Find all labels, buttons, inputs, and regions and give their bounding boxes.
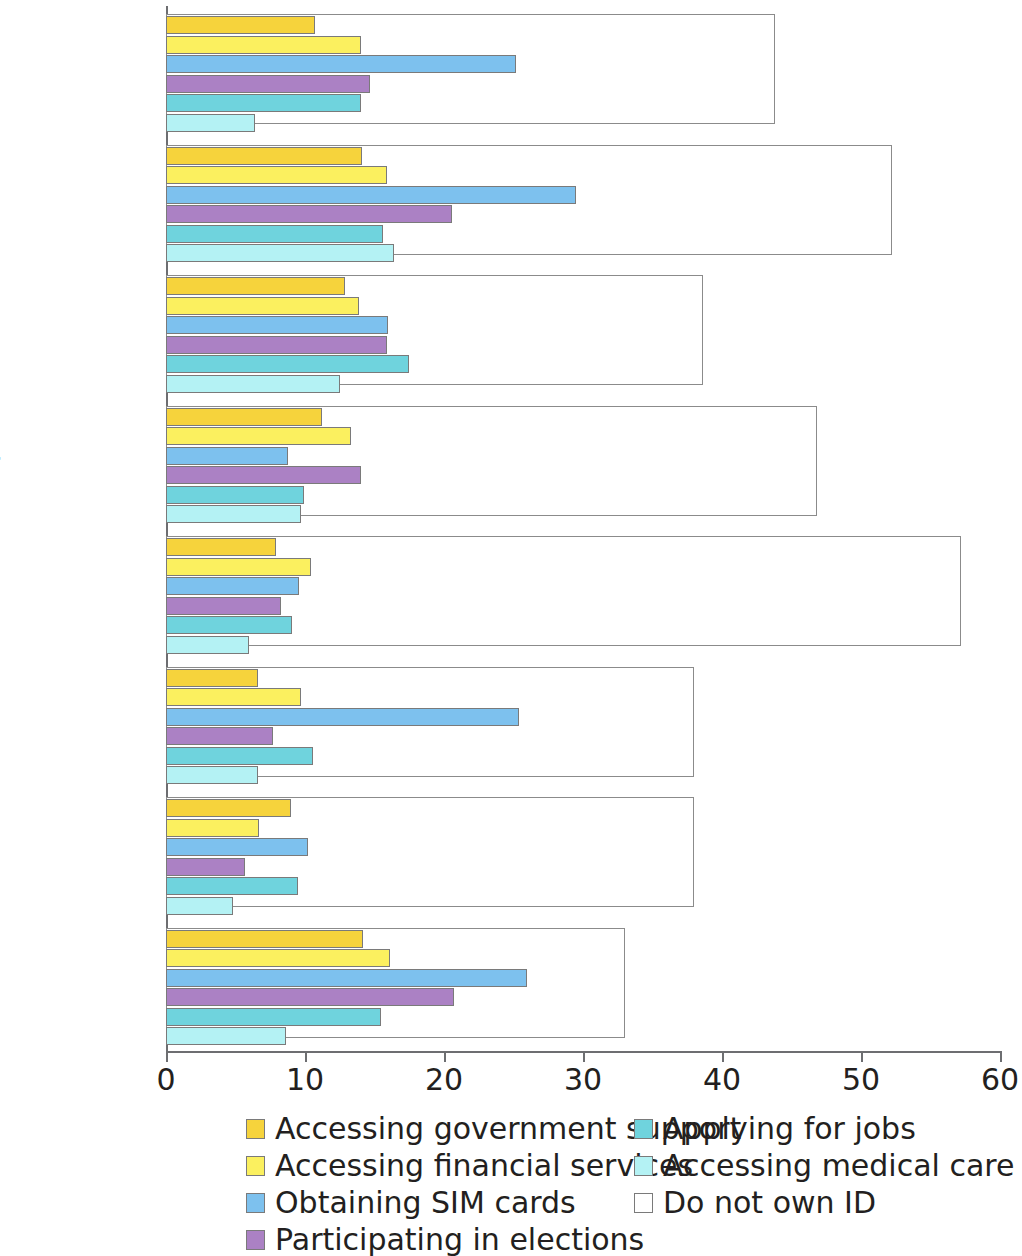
bar-series-1 bbox=[166, 427, 351, 445]
horizontal-bar-chart: 0102030405060 Congo, Rep.GuineaMozambiqu… bbox=[0, 0, 1022, 1256]
bar-series-2 bbox=[166, 708, 519, 726]
bar-series-4 bbox=[166, 747, 313, 765]
bar-series-2 bbox=[166, 186, 576, 204]
legend-item[interactable]: Accessing medical care bbox=[634, 1151, 1014, 1181]
x-tick-mark bbox=[722, 1051, 724, 1062]
bar-series-5 bbox=[166, 1027, 286, 1045]
legend-swatch-icon bbox=[246, 1156, 265, 1176]
bar-series-2 bbox=[166, 447, 288, 465]
plot-area: 0102030405060 Congo, Rep.GuineaMozambiqu… bbox=[0, 0, 1022, 1100]
bar-series-5 bbox=[166, 505, 301, 523]
x-tick-label: 20 bbox=[425, 1062, 463, 1097]
legend-label: Accessing medical care bbox=[663, 1151, 1014, 1181]
x-tick-label: 0 bbox=[156, 1062, 175, 1097]
x-tick-label: 40 bbox=[703, 1062, 741, 1097]
bar-series-5 bbox=[166, 114, 255, 132]
legend-swatch-icon bbox=[634, 1119, 653, 1139]
bar-series-0 bbox=[166, 147, 362, 165]
bar-group: Sierra Leone bbox=[166, 528, 1022, 659]
legend-label: Applying for jobs bbox=[663, 1114, 916, 1144]
bar-series-5 bbox=[166, 897, 233, 915]
legend-swatch-icon bbox=[246, 1193, 265, 1213]
legend-item[interactable]: Do not own ID bbox=[634, 1188, 876, 1218]
legend-swatch-icon bbox=[246, 1119, 265, 1139]
bar-series-4 bbox=[166, 355, 409, 373]
bar-series-4 bbox=[166, 486, 304, 504]
legend-swatch-icon bbox=[634, 1193, 653, 1213]
legend-swatch-icon bbox=[634, 1156, 653, 1176]
x-tick-mark bbox=[583, 1051, 585, 1062]
legend-item[interactable]: Participating in elections bbox=[246, 1225, 644, 1255]
bar-group: Mozambique bbox=[166, 267, 1022, 398]
legend-label: Accessing financial services bbox=[275, 1151, 693, 1181]
bar-series-3 bbox=[166, 727, 273, 745]
x-tick-label: 50 bbox=[842, 1062, 880, 1097]
legend-label: Do not own ID bbox=[663, 1188, 876, 1218]
bar-series-3 bbox=[166, 466, 361, 484]
bar-series-3 bbox=[166, 988, 454, 1006]
bar-series-5 bbox=[166, 375, 340, 393]
bar-series-1 bbox=[166, 36, 361, 54]
x-tick-label: 30 bbox=[564, 1062, 602, 1097]
legend-item[interactable]: Obtaining SIM cards bbox=[246, 1188, 576, 1218]
bar-series-1 bbox=[166, 688, 301, 706]
legend-label: Participating in elections bbox=[275, 1225, 644, 1255]
bar-series-3 bbox=[166, 336, 387, 354]
bar-series-0 bbox=[166, 408, 322, 426]
x-tick-mark bbox=[1000, 1051, 1002, 1062]
bar-group: Tanzania bbox=[166, 659, 1022, 790]
bar-group: Guinea bbox=[166, 137, 1022, 268]
bar-series-4 bbox=[166, 94, 361, 112]
legend-swatch-icon bbox=[246, 1230, 265, 1250]
x-tick-mark bbox=[166, 1051, 168, 1062]
legend-item[interactable]: Accessing financial services bbox=[246, 1151, 693, 1181]
chart-legend: Accessing government supportAccessing fi… bbox=[0, 1104, 1022, 1256]
bar-series-4 bbox=[166, 616, 292, 634]
x-tick-label: 10 bbox=[286, 1062, 324, 1097]
bar-series-5 bbox=[166, 636, 249, 654]
bar-series-0 bbox=[166, 16, 315, 34]
bar-series-2 bbox=[166, 316, 388, 334]
bar-series-0 bbox=[166, 538, 276, 556]
x-tick-mark bbox=[444, 1051, 446, 1062]
x-tick-label: 60 bbox=[981, 1062, 1019, 1097]
bar-series-5 bbox=[166, 244, 394, 262]
bar-series-3 bbox=[166, 858, 245, 876]
bar-series-5 bbox=[166, 766, 258, 784]
bar-series-1 bbox=[166, 297, 359, 315]
bar-series-0 bbox=[166, 799, 291, 817]
bar-group: Congo, Rep. bbox=[166, 6, 1022, 137]
bar-series-2 bbox=[166, 577, 299, 595]
bar-series-3 bbox=[166, 597, 281, 615]
bar-series-0 bbox=[166, 669, 258, 687]
bar-series-3 bbox=[166, 205, 452, 223]
x-tick-mark bbox=[861, 1051, 863, 1062]
x-tick-mark bbox=[305, 1051, 307, 1062]
bar-series-1 bbox=[166, 819, 259, 837]
bar-series-4 bbox=[166, 877, 298, 895]
bar-series-2 bbox=[166, 969, 527, 987]
bar-series-0 bbox=[166, 277, 345, 295]
bar-series-4 bbox=[166, 225, 383, 243]
bar-series-4 bbox=[166, 1008, 381, 1026]
bar-group: Niger bbox=[166, 398, 1022, 529]
legend-item[interactable]: Applying for jobs bbox=[634, 1114, 916, 1144]
bar-series-1 bbox=[166, 166, 387, 184]
bar-group: Togo bbox=[166, 789, 1022, 920]
bar-series-0 bbox=[166, 930, 363, 948]
bar-series-3 bbox=[166, 75, 370, 93]
bar-series-2 bbox=[166, 838, 308, 856]
bar-series-1 bbox=[166, 558, 311, 576]
bar-series-1 bbox=[166, 949, 390, 967]
bar-series-2 bbox=[166, 55, 516, 73]
legend-label: Obtaining SIM cards bbox=[275, 1188, 576, 1218]
bar-group: Uganda bbox=[166, 920, 1022, 1051]
